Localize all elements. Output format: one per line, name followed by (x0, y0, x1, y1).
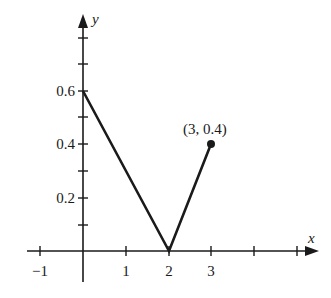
x-tick-label-3: 3 (207, 263, 215, 279)
x-tick-label-neg1: −1 (32, 263, 48, 279)
x-axis-label: x (307, 230, 315, 246)
y-axis-label: y (90, 11, 99, 27)
chart-canvas: y x (3, 0.4) −1 1 2 3 0.2 0.4 0.6 (0, 0, 331, 298)
y-tick-label-0.4: 0.4 (56, 136, 75, 152)
x-axis (27, 246, 319, 256)
x-axis-arrow-icon (305, 246, 319, 256)
y-axis (78, 14, 88, 282)
endpoint-dot (207, 140, 215, 148)
x-tick-label-1: 1 (122, 263, 130, 279)
y-tick-label-0.6: 0.6 (56, 83, 75, 99)
point-label: (3, 0.4) (183, 121, 227, 138)
y-tick-label-0.2: 0.2 (56, 190, 75, 206)
y-axis-arrow-icon (78, 14, 88, 28)
x-tick-label-2: 2 (165, 263, 173, 279)
function-line (83, 91, 211, 251)
